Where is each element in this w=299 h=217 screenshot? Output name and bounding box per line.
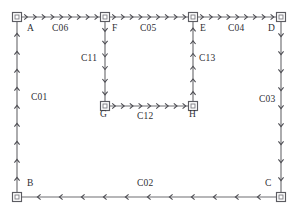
- edge-label-C01: C01: [31, 93, 47, 103]
- node-label-C: C: [265, 179, 272, 189]
- node-label-E: E: [200, 24, 206, 34]
- node-B[interactable]: [13, 193, 22, 202]
- edge-label-C06: C06: [52, 24, 68, 34]
- node-C[interactable]: [277, 193, 286, 202]
- node-inner-B: [15, 195, 19, 199]
- node-label-G: G: [100, 110, 107, 120]
- node-inner-F: [103, 15, 107, 19]
- node-inner-D: [279, 15, 283, 19]
- node-inner-A: [15, 15, 19, 19]
- node-D[interactable]: [277, 13, 286, 22]
- arrows-layer: [14, 14, 283, 199]
- node-E[interactable]: [189, 13, 198, 22]
- edge-label-C11: C11: [81, 54, 97, 64]
- node-F[interactable]: [101, 13, 110, 22]
- edge-label-C13: C13: [199, 54, 215, 64]
- node-inner-E: [191, 15, 195, 19]
- edge-label-C12: C12: [137, 112, 153, 122]
- node-inner-C: [279, 195, 283, 199]
- network-diagram: AFEDGHBCC06C05C04C03C02C01C11C12C13: [0, 0, 299, 217]
- node-label-B: B: [27, 179, 34, 189]
- node-inner-G: [103, 104, 107, 108]
- node-A[interactable]: [13, 13, 22, 22]
- edge-label-C04: C04: [228, 24, 244, 34]
- edge-label-C02: C02: [137, 179, 153, 189]
- node-label-F: F: [112, 24, 117, 34]
- node-label-D: D: [268, 24, 275, 34]
- node-inner-H: [191, 104, 195, 108]
- edge-label-C05: C05: [140, 24, 156, 34]
- node-label-H: H: [189, 110, 196, 120]
- edge-label-C03: C03: [259, 95, 275, 105]
- node-label-A: A: [27, 24, 34, 34]
